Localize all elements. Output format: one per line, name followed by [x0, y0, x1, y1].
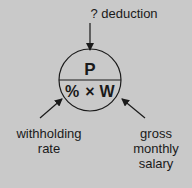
- gross-salary-line3: salary: [126, 156, 186, 171]
- withholding-rate-line2: rate: [8, 141, 90, 156]
- circle-bottom-operator: ×: [85, 83, 94, 100]
- withholding-rate-arrow: [40, 99, 62, 118]
- circle-top-symbol: P: [84, 60, 95, 79]
- withholding-rate-label: withholding rate: [8, 126, 90, 156]
- gross-salary-line1: gross: [126, 126, 186, 141]
- gross-monthly-salary-label: gross monthly salary: [126, 126, 186, 171]
- circle-bottom-right-symbol: W: [99, 83, 115, 100]
- gross-salary-arrow: [122, 99, 145, 118]
- gross-salary-line2: monthly: [126, 141, 186, 156]
- circle-bottom-left-symbol: %: [65, 83, 79, 100]
- deduction-label: ? deduction: [86, 6, 162, 21]
- withholding-rate-line1: withholding: [8, 126, 90, 141]
